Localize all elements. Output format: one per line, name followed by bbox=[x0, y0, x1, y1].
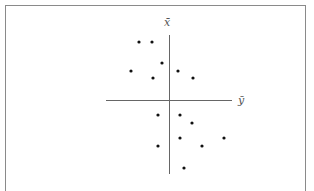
data-point bbox=[222, 136, 225, 139]
x-bar-label: x̄ bbox=[164, 16, 171, 29]
data-point bbox=[200, 144, 203, 147]
data-point bbox=[190, 121, 193, 124]
data-point bbox=[191, 76, 194, 79]
data-point bbox=[129, 69, 132, 72]
data-point bbox=[178, 136, 181, 139]
data-point bbox=[137, 40, 140, 43]
scatter-diagram: x̄ ȳ bbox=[0, 0, 314, 191]
data-points bbox=[129, 40, 225, 169]
data-point bbox=[156, 113, 159, 116]
y-bar-label: ȳ bbox=[237, 94, 245, 107]
data-point bbox=[182, 166, 185, 169]
data-point bbox=[178, 113, 181, 116]
data-point bbox=[160, 61, 163, 64]
data-point bbox=[176, 69, 179, 72]
data-point bbox=[151, 76, 154, 79]
data-point bbox=[150, 40, 153, 43]
data-point bbox=[156, 144, 159, 147]
